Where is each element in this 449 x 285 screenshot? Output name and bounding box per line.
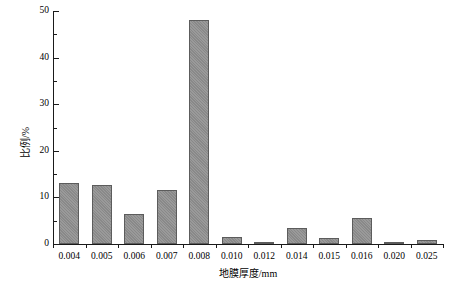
x-tick-label: 0.007: [156, 252, 177, 262]
x-tick: [183, 244, 184, 248]
x-tick: [248, 244, 249, 248]
bar: [157, 190, 177, 244]
x-tick: [443, 244, 444, 248]
bar-chart-figure: 比例/% 01020304050 0.0040.0050.0060.0070.0…: [0, 0, 449, 285]
x-axis-label: 地膜厚度/mm: [53, 265, 443, 280]
bar: [417, 240, 437, 244]
x-tick-label: 0.012: [254, 252, 275, 262]
y-tick-label: 40: [40, 53, 50, 63]
y-tick-label: 20: [40, 146, 50, 156]
bars-series: [53, 11, 443, 244]
bar: [189, 20, 209, 244]
x-tick-label: 0.005: [91, 252, 112, 262]
x-tick: [53, 244, 54, 248]
bar: [384, 242, 404, 244]
x-tick-label: 0.006: [124, 252, 145, 262]
x-tick: [281, 244, 282, 248]
bar: [254, 242, 274, 244]
y-tick-major: [54, 244, 59, 245]
bar: [287, 228, 307, 244]
y-tick-label: 10: [40, 193, 50, 203]
x-tick: [378, 244, 379, 248]
x-tick: [411, 244, 412, 248]
x-tick: [118, 244, 119, 248]
bar: [124, 214, 144, 244]
y-tick-label: 50: [40, 6, 50, 16]
x-tick: [86, 244, 87, 248]
bar: [352, 218, 372, 244]
x-tick-label: 0.008: [189, 252, 210, 262]
x-tick-label: 0.020: [384, 252, 405, 262]
bar: [222, 237, 242, 244]
bar: [59, 183, 79, 244]
y-tick-label: 0: [44, 239, 49, 249]
x-tick-label: 0.016: [351, 252, 372, 262]
x-tick: [346, 244, 347, 248]
plot-area: 01020304050 0.0040.0050.0060.0070.0080.0…: [53, 11, 443, 244]
bar: [92, 185, 112, 244]
y-tick-label: 30: [40, 99, 50, 109]
x-tick-label: 0.004: [59, 252, 80, 262]
x-tick: [313, 244, 314, 248]
bar: [319, 238, 339, 244]
x-tick-label: 0.025: [416, 252, 437, 262]
x-tick: [216, 244, 217, 248]
x-tick: [151, 244, 152, 248]
x-tick-label: 0.015: [319, 252, 340, 262]
x-tick-label: 0.010: [221, 252, 242, 262]
x-tick-label: 0.014: [286, 252, 307, 262]
y-axis-label: 比例/%: [16, 0, 32, 285]
